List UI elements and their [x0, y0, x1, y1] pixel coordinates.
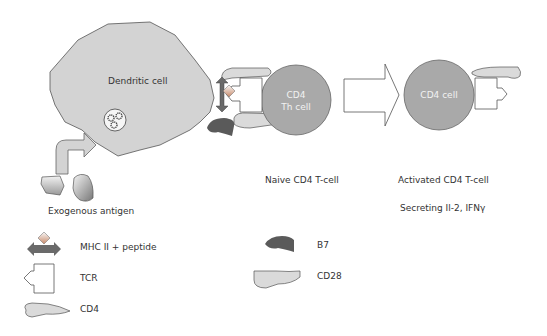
legend-mhc-peptide-label: MHC II + peptide: [80, 242, 157, 252]
uptake-arrow: [56, 133, 96, 174]
legend-cd28-label: CD28: [317, 271, 342, 281]
antigen-processing-icon: [104, 109, 126, 131]
naive-cell-caption: Naive CD4 T-cell: [265, 175, 339, 185]
antigen-particle-2: [73, 174, 93, 201]
legend-tcr-label: TCR: [80, 273, 98, 283]
legend-cd28-icon: [254, 271, 300, 288]
activated-cell-caption: Activated CD4 T-cell: [398, 175, 489, 185]
antigen-particle-1: [41, 176, 64, 195]
dendritic-cell: [50, 22, 214, 156]
diagram-canvas: [0, 0, 547, 336]
naive-cell-label-line2: Th cell: [272, 101, 320, 113]
legend-b7-icon: [265, 236, 294, 252]
legend-mhc-peptide-icon: [27, 232, 61, 256]
activation-arrow: [344, 64, 399, 126]
dendritic-cell-label: Dendritic cell: [108, 76, 167, 86]
naive-cell-label-line1: CD4: [272, 89, 320, 101]
secretion-caption: Secreting Il-2, IFNγ: [400, 203, 485, 213]
legend-cd4-label: CD4: [80, 304, 99, 314]
antigen-caption: Exogenous antigen: [48, 206, 134, 216]
activated-cell-label: CD4 cell: [413, 89, 465, 101]
legend-cd4-icon: [25, 303, 70, 317]
legend-tcr-icon: [24, 264, 54, 293]
legend-b7-label: B7: [317, 240, 329, 250]
b7-molecule: [207, 118, 234, 136]
